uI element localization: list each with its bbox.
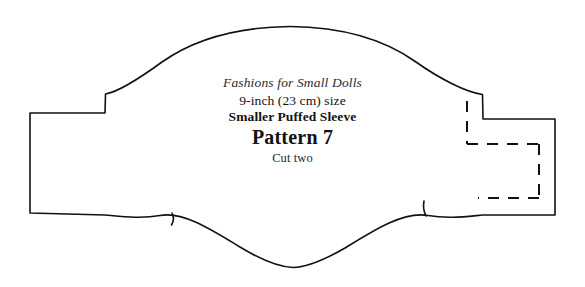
brand-label: Fashions for Small Dolls [0,76,585,94]
cut-instruction-label: Cut two [0,152,585,165]
notch-mark-group [172,201,427,225]
size-label: 9-inch (23 cm) size [0,94,585,111]
piece-name-label: Smaller Puffed Sleeve [0,110,585,127]
pattern-number-label: Pattern 7 [0,127,585,152]
pattern-sheet: Fashions for Small Dolls 9-inch (23 cm) … [0,0,585,287]
notch-right [424,201,426,216]
pattern-label-block: Fashions for Small Dolls 9-inch (23 cm) … [0,76,585,164]
